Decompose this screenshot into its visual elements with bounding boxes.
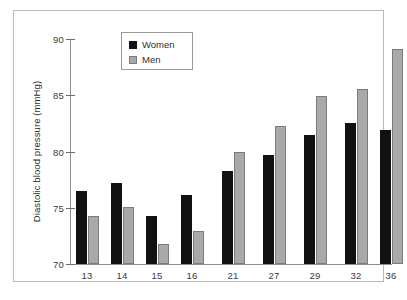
- gray-square-icon: [129, 56, 137, 64]
- x-tick-label-27: 27: [254, 270, 294, 281]
- y-tick-75: [66, 208, 75, 209]
- bar-women-21: [222, 171, 233, 264]
- y-tick-label-80: 80: [53, 146, 64, 157]
- chart-frame: Diastolic blood pressure (mmHg) 70758085…: [13, 10, 384, 282]
- bar-women-15: [146, 216, 157, 264]
- legend-label-women: Women: [142, 39, 175, 50]
- bar-men-13: [88, 216, 99, 264]
- x-tick-label-29: 29: [295, 270, 335, 281]
- bar-women-16: [181, 195, 192, 264]
- x-tick-label-14: 14: [102, 270, 142, 281]
- y-tick-label-90: 90: [53, 34, 64, 45]
- legend-item-men: Men: [129, 52, 192, 67]
- bar-women-14: [111, 183, 122, 264]
- legend-label-men: Men: [142, 54, 160, 65]
- black-square-icon: [129, 41, 137, 49]
- chart-legend: WomenMen: [121, 32, 193, 70]
- bar-men-15: [158, 244, 169, 264]
- bar-women-13: [76, 191, 87, 264]
- bar-women-32: [345, 123, 356, 264]
- bar-men-29: [316, 96, 327, 264]
- y-tick-90: [66, 39, 75, 40]
- bar-men-32: [357, 89, 368, 265]
- y-axis-title: Diastolic blood pressure (mmHg): [30, 39, 44, 264]
- x-tick-label-13: 13: [67, 270, 107, 281]
- x-tick-label-16: 16: [172, 270, 212, 281]
- bar-men-27: [275, 126, 286, 264]
- y-axis-title-text: Diastolic blood pressure (mmHg): [32, 81, 43, 222]
- legend-item-women: Women: [129, 37, 192, 52]
- x-tick-label-15: 15: [137, 270, 177, 281]
- bar-women-27: [263, 155, 274, 264]
- x-tick-label-32: 32: [336, 270, 376, 281]
- plot-area: 7075808590 131415162127293236: [70, 39, 392, 264]
- bar-men-36: [392, 49, 403, 264]
- bar-men-16: [193, 231, 204, 264]
- bar-women-36: [380, 130, 391, 264]
- x-axis-line: [70, 264, 392, 265]
- y-tick-85: [66, 95, 75, 96]
- bar-men-21: [234, 152, 245, 265]
- bar-women-29: [304, 135, 315, 264]
- x-tick-label-21: 21: [213, 270, 253, 281]
- y-tick-70: [66, 264, 75, 265]
- y-tick-label-85: 85: [53, 90, 64, 101]
- y-tick-label-75: 75: [53, 202, 64, 213]
- y-tick-label-70: 70: [53, 259, 64, 270]
- y-tick-80: [66, 152, 75, 153]
- bar-men-14: [123, 207, 134, 264]
- x-tick-label-36: 36: [371, 270, 407, 281]
